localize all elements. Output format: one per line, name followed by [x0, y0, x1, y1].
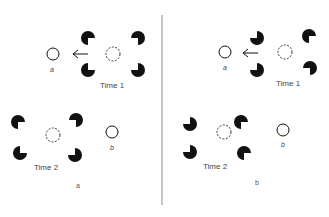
inducer-pacman — [68, 148, 82, 162]
inducer-pacman — [237, 146, 251, 160]
target-circle-b — [106, 126, 118, 138]
illusory-square-dashed-circle — [46, 128, 60, 142]
time-label: Time 1 — [276, 79, 301, 88]
time-label: Time 2 — [34, 163, 59, 172]
left-arrow-icon — [73, 50, 88, 58]
inducer-pacman — [183, 145, 197, 159]
inducer-pacman — [250, 63, 264, 77]
target-label-b: b — [281, 141, 285, 148]
inducer-pacman — [81, 31, 95, 45]
panel-label: b — [255, 179, 259, 186]
motion-illusion-figure: a Time 1 b Time 2 a a — [0, 0, 329, 217]
target-circle-b — [277, 124, 289, 136]
dashed-circle — [278, 45, 292, 59]
inducer-pacman — [183, 117, 197, 131]
left-arrow-icon — [243, 49, 258, 57]
target-circle-a — [47, 48, 59, 60]
inducer-pacman — [81, 63, 95, 77]
inducer-pacman — [303, 61, 317, 75]
inducer-pacman — [302, 29, 316, 43]
inducer-pacman — [11, 115, 25, 129]
panel-b-time2: b Time 2 b — [183, 115, 289, 186]
inducer-pacman — [69, 113, 83, 127]
inducer-pacman — [13, 146, 27, 160]
panel-a-time1: a Time 1 — [47, 31, 145, 90]
target-label-a: a — [50, 66, 54, 73]
target-circle-a — [219, 46, 231, 58]
inducer-pacman — [131, 31, 145, 45]
inducer-pacman — [234, 115, 248, 129]
target-label-b: b — [110, 144, 114, 151]
panel-b-time1: a Time 1 — [219, 29, 317, 88]
inducer-pacman — [250, 31, 264, 45]
panel-label: a — [76, 182, 80, 189]
illusory-square-dashed-circle — [106, 47, 120, 61]
time-label: Time 1 — [100, 81, 125, 90]
panel-a-time2: b Time 2 a — [11, 113, 118, 189]
target-label-a: a — [223, 64, 227, 71]
time-label: Time 2 — [203, 162, 228, 171]
inducer-pacman — [131, 63, 145, 77]
dashed-circle — [217, 125, 231, 139]
